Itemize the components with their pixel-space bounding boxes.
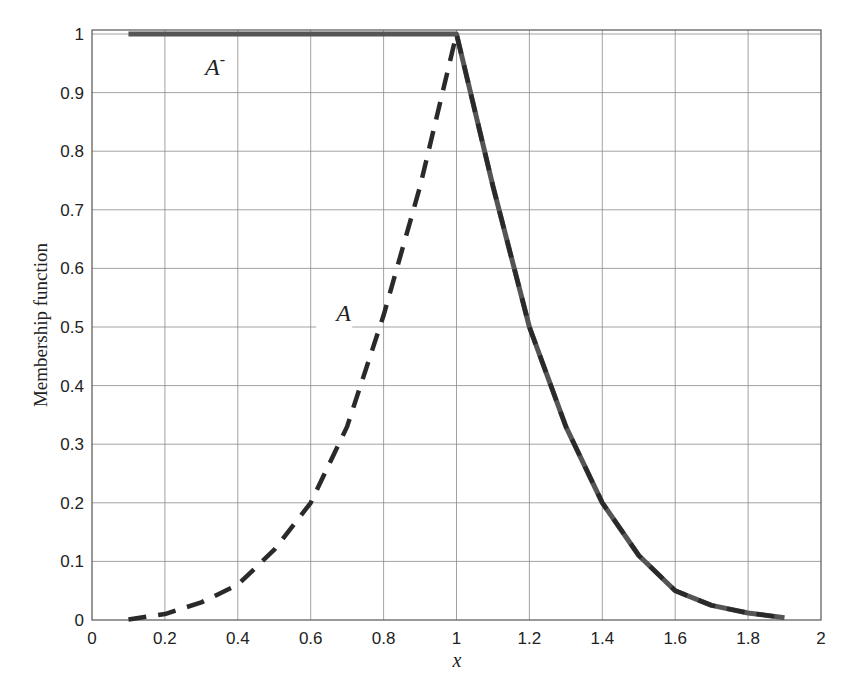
x-tick-label: 1.2 (518, 629, 542, 648)
y-tick-label: 1 (75, 25, 84, 44)
x-tick-label: 0 (87, 629, 96, 648)
y-tick-label: 0 (75, 611, 84, 630)
y-tick-label: 0.6 (60, 259, 84, 278)
y-tick-label: 0.7 (60, 201, 84, 220)
grid-lines (92, 30, 821, 620)
membership-function-chart: 00.20.40.60.811.21.41.61.8200.10.20.30.4… (0, 0, 856, 690)
y-tick-label: 0.5 (60, 318, 84, 337)
axis-ticks: 00.20.40.60.811.21.41.61.8200.10.20.30.4… (60, 25, 825, 648)
x-tick-label: 1.8 (736, 629, 760, 648)
x-axis-label: x (452, 649, 462, 671)
x-tick-label: 0.6 (299, 629, 323, 648)
y-tick-label: 0.2 (60, 494, 84, 513)
y-axis-label: Membership function (30, 242, 51, 407)
y-tick-label: 0.8 (60, 142, 84, 161)
curve-labels: A-A (185, 51, 352, 331)
y-tick-label: 0.3 (60, 435, 84, 454)
x-tick-label: 1.6 (663, 629, 687, 648)
y-tick-label: 0.9 (60, 84, 84, 103)
x-tick-label: 0.4 (226, 629, 250, 648)
y-tick-label: 0.1 (60, 552, 84, 571)
x-tick-label: 2 (816, 629, 825, 648)
x-tick-label: 1.4 (590, 629, 614, 648)
x-tick-label: 0.8 (372, 629, 396, 648)
curve-label-a: A (334, 300, 351, 326)
y-tick-label: 0.4 (60, 377, 84, 396)
x-tick-label: 1 (452, 629, 461, 648)
x-tick-label: 0.2 (153, 629, 177, 648)
